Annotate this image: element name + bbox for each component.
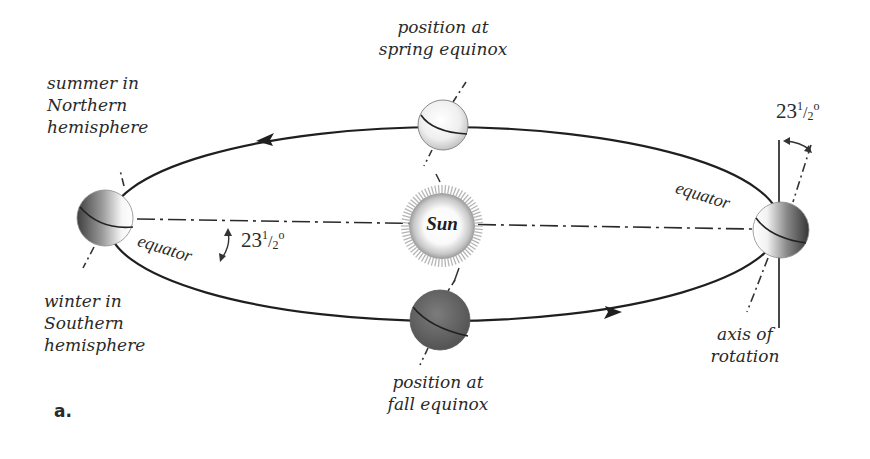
label-axis-of-rotation: axis of rotation bbox=[690, 323, 800, 367]
earth-fall-equinox bbox=[410, 280, 470, 365]
earth-spring-equinox bbox=[418, 82, 468, 166]
label-summer-north: summer in Northern hemisphere bbox=[47, 72, 148, 138]
angle-whole: 23 bbox=[241, 228, 262, 252]
figure-label: a. bbox=[54, 401, 72, 421]
tilt-arc-left-icon bbox=[219, 228, 232, 262]
label-line: spring equinox bbox=[368, 38, 518, 60]
label-line: summer in bbox=[47, 72, 148, 94]
label-line: hemisphere bbox=[47, 116, 148, 138]
orbit-diagram: summer in Northern hemisphere winter in … bbox=[0, 0, 870, 459]
angle-whole: 23 bbox=[776, 99, 797, 123]
label-line: position at bbox=[368, 16, 518, 38]
degree-symbol: o bbox=[813, 99, 819, 113]
label-line: Northern bbox=[47, 94, 148, 116]
label-spring-equinox: position at spring equinox bbox=[368, 16, 518, 60]
label-fall-equinox: position at fall equinox bbox=[363, 371, 513, 415]
label-line: hemisphere bbox=[44, 334, 145, 356]
angle-right: 231/2o bbox=[776, 99, 819, 124]
degree-symbol: o bbox=[278, 228, 284, 242]
label-winter-south: winter in Southern hemisphere bbox=[44, 290, 145, 356]
label-line: axis of bbox=[690, 323, 800, 345]
label-line: fall equinox bbox=[363, 393, 513, 415]
label-line: Southern bbox=[44, 312, 145, 334]
angle-left: 231/2o bbox=[241, 228, 284, 253]
label-line: rotation bbox=[690, 345, 800, 367]
sun-label: Sun bbox=[412, 213, 472, 235]
label-line: winter in bbox=[44, 290, 145, 312]
tilt-arc-right-icon bbox=[783, 137, 812, 153]
label-line: position at bbox=[363, 371, 513, 393]
earth-winter-north bbox=[747, 140, 811, 328]
sun-axis-top bbox=[436, 174, 440, 182]
